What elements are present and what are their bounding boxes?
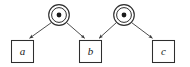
circle-node-1[interactable]: [49, 5, 70, 26]
box-node-b-label: b: [88, 45, 94, 57]
edge-group: [30, 23, 153, 39]
diagram-svg: a b c: [0, 0, 190, 67]
box-node-a-label: a: [20, 45, 26, 57]
box-node-c[interactable]: c: [153, 41, 175, 63]
edge-circle1-to-a: [30, 23, 52, 39]
box-node-a[interactable]: a: [12, 41, 34, 63]
circle-node-1-center-dot-icon: [57, 13, 62, 18]
edge-circle2-to-c: [132, 23, 153, 39]
edge-circle2-to-b: [99, 23, 116, 39]
circle-node-2-center-dot-icon: [122, 13, 127, 18]
diagram-canvas: a b c: [0, 0, 190, 67]
box-node-b[interactable]: b: [80, 41, 102, 63]
edge-circle1-to-b: [67, 23, 85, 39]
box-node-c-label: c: [161, 45, 166, 57]
circle-node-2[interactable]: [114, 5, 135, 26]
